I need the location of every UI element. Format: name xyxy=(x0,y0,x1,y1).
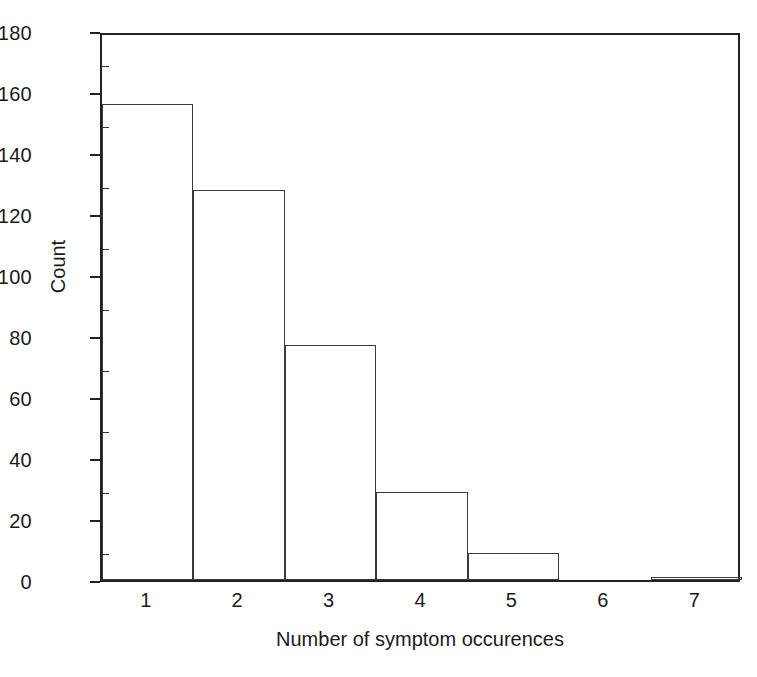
y-tick-label-0: 0 xyxy=(21,571,32,594)
y-tick-label-160: 160 xyxy=(0,83,32,106)
y-tick-label-100: 100 xyxy=(0,266,32,289)
plot-area xyxy=(100,33,740,582)
histogram-figure: 020406080100120140160180 Count 1234567 N… xyxy=(0,0,757,677)
x-tick-label-2: 2 xyxy=(232,589,243,612)
y-axis-tick-labels: 020406080100120140160180 xyxy=(0,0,100,677)
bar-series xyxy=(102,35,738,580)
x-tick-label-4: 4 xyxy=(414,589,425,612)
y-tick-label-140: 140 xyxy=(0,144,32,167)
bar-4 xyxy=(376,492,467,580)
y-tick-label-40: 40 xyxy=(9,449,32,472)
bar-3 xyxy=(285,345,376,580)
x-tick-label-1: 1 xyxy=(140,589,151,612)
x-tick-label-6: 6 xyxy=(597,589,608,612)
x-axis-title: Number of symptom occurences xyxy=(100,628,740,651)
bar-5 xyxy=(468,553,559,580)
y-tick-label-20: 20 xyxy=(9,510,32,533)
y-axis-title: Count xyxy=(47,207,70,327)
x-axis-tick-labels: 1234567 xyxy=(100,589,740,619)
y-tick-label-80: 80 xyxy=(9,327,32,350)
y-tick-label-120: 120 xyxy=(0,205,32,228)
bar-7 xyxy=(651,577,742,580)
bar-2 xyxy=(193,190,284,580)
x-tick-label-3: 3 xyxy=(323,589,334,612)
y-tick-label-60: 60 xyxy=(9,388,32,411)
x-tick-label-5: 5 xyxy=(506,589,517,612)
y-tick-label-180: 180 xyxy=(0,22,32,45)
bar-1 xyxy=(102,104,193,580)
x-tick-label-7: 7 xyxy=(689,589,700,612)
